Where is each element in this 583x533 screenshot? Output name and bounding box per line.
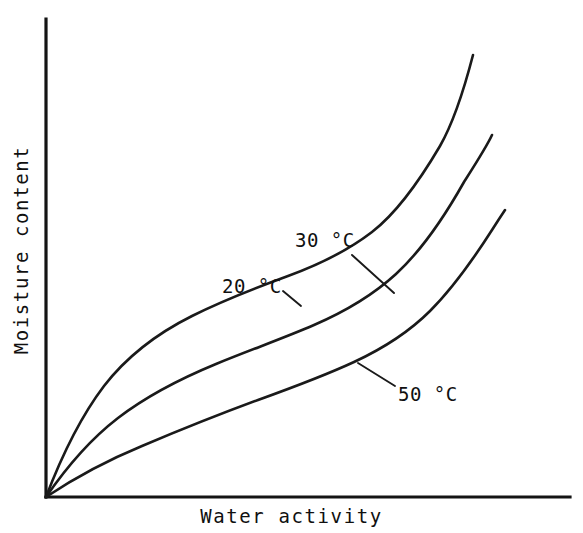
y-axis-title-text: Moisture content xyxy=(10,146,32,355)
y-axis-title: Moisture content xyxy=(6,120,36,380)
curve-label-50c: 50 °C xyxy=(398,385,458,404)
leader-line-50c xyxy=(358,363,395,386)
sorption-isotherm-figure: 20 °C 30 °C 50 °C Water activity Moistur… xyxy=(0,0,583,533)
leader-line-20c xyxy=(283,291,301,306)
curve-label-30c: 30 °C xyxy=(295,231,355,250)
isotherm-curve-50c xyxy=(46,210,505,497)
leader-line-30c xyxy=(352,255,394,293)
x-axis-title: Water activity xyxy=(0,505,583,527)
plot-canvas xyxy=(0,0,583,533)
curve-label-20c: 20 °C xyxy=(222,277,282,296)
